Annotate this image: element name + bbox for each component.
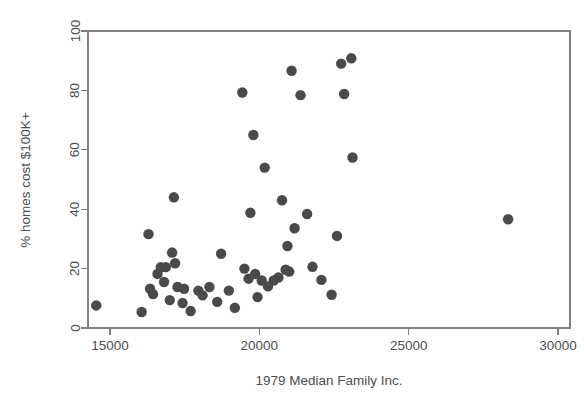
data-point: [167, 247, 177, 257]
data-point: [273, 272, 283, 282]
y-axis-title: % homes cost $100K+: [18, 112, 33, 248]
y-tick-label: 40: [68, 202, 83, 217]
data-point: [302, 209, 312, 219]
data-point: [286, 66, 296, 76]
y-tick-label: 60: [68, 142, 83, 157]
x-tick-label: 20000: [241, 338, 279, 353]
y-tick-label: 80: [68, 83, 83, 98]
x-axis-title: 1979 Median Family Inc.: [255, 373, 402, 388]
x-tick-label: 15000: [91, 338, 129, 353]
data-point: [161, 262, 171, 272]
data-point: [179, 284, 189, 294]
data-point: [326, 290, 336, 300]
data-point: [245, 208, 255, 218]
x-tick-label: 30000: [539, 338, 577, 353]
data-point: [197, 290, 207, 300]
y-tick-label: 0: [68, 324, 83, 332]
data-point-series: [91, 53, 513, 317]
data-point: [212, 297, 222, 307]
data-point: [143, 229, 153, 239]
data-point: [503, 214, 513, 224]
data-point: [148, 289, 158, 299]
data-point: [136, 307, 146, 317]
data-point: [284, 266, 294, 276]
plot-canvas: 15000200002500030000 020406080100 1979 M…: [0, 0, 584, 400]
data-point: [237, 87, 247, 97]
y-tick-label: 100: [68, 20, 83, 43]
data-point: [339, 89, 349, 99]
data-point: [216, 249, 226, 259]
data-point: [289, 223, 299, 233]
x-axis-ticks: 15000200002500030000: [91, 328, 577, 353]
x-tick-label: 25000: [390, 338, 428, 353]
scatter-plot-figure: 15000200002500030000 020406080100 1979 M…: [0, 0, 584, 400]
data-point: [224, 285, 234, 295]
data-point: [177, 298, 187, 308]
data-point: [159, 277, 169, 287]
data-point: [170, 258, 180, 268]
data-point: [347, 152, 357, 162]
data-point: [277, 195, 287, 205]
data-point: [204, 282, 214, 292]
data-point: [346, 53, 356, 63]
data-point: [295, 90, 305, 100]
data-point: [260, 162, 270, 172]
data-point: [282, 241, 292, 251]
data-point: [230, 303, 240, 313]
data-point: [336, 58, 346, 68]
y-axis-ticks: 020406080100: [68, 20, 89, 332]
data-point: [91, 300, 101, 310]
data-point: [307, 262, 317, 272]
data-point: [169, 192, 179, 202]
data-point: [332, 231, 342, 241]
y-tick-label: 20: [68, 261, 83, 276]
data-point: [185, 306, 195, 316]
data-point: [316, 275, 326, 285]
data-point: [239, 263, 249, 273]
data-point: [248, 130, 258, 140]
data-point: [165, 295, 175, 305]
data-point: [252, 292, 262, 302]
